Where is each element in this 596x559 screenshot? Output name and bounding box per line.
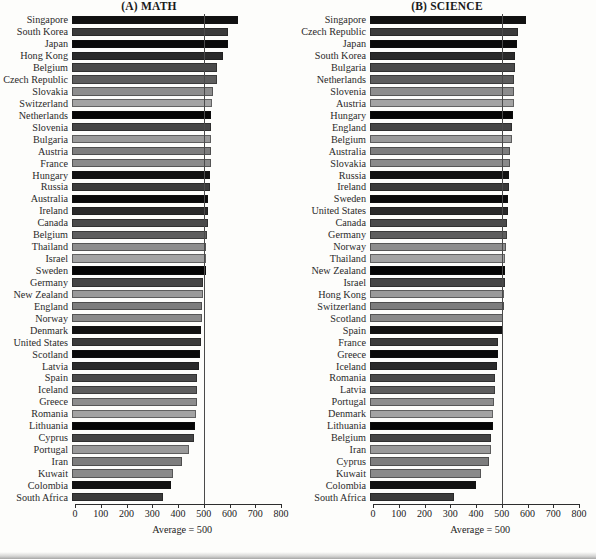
bar: [370, 362, 497, 370]
country-label: South Africa: [0, 492, 72, 503]
bar-track: [72, 157, 298, 169]
bar-track: [370, 62, 596, 74]
bar-row: Israel: [298, 277, 596, 289]
country-label: Czech Republic: [298, 26, 370, 37]
bar: [72, 326, 201, 334]
bar-row: Hong Kong: [0, 50, 298, 62]
bar-track: [370, 26, 596, 38]
bar-row: Greece: [0, 396, 298, 408]
country-label: Iceland: [298, 361, 370, 372]
bar: [370, 207, 508, 215]
bar-row: Singapore: [298, 14, 596, 26]
country-label: France: [298, 337, 370, 348]
axis-tick-label: 700: [546, 508, 561, 519]
bar-track: [370, 444, 596, 456]
bar-row: Czech Republic: [298, 26, 596, 38]
bar: [370, 183, 509, 191]
bar: [72, 147, 211, 155]
country-label: United States: [298, 205, 370, 216]
panel-math: (A) MATH SingaporeSouth KoreaJapanHong K…: [0, 0, 298, 559]
bar-track: [370, 86, 596, 98]
bar-track: [72, 229, 298, 241]
country-label: Australia: [298, 146, 370, 157]
bar: [72, 374, 197, 382]
bar-row: France: [0, 157, 298, 169]
country-label: Slovenia: [298, 86, 370, 97]
country-label: Portugal: [0, 444, 72, 455]
bar: [72, 278, 203, 286]
bar: [370, 481, 476, 489]
bar-track: [370, 50, 596, 62]
bar: [370, 290, 504, 298]
country-label: Australia: [0, 193, 72, 204]
country-label: Colombia: [0, 480, 72, 491]
bar: [72, 398, 197, 406]
bar-row: Ireland: [0, 205, 298, 217]
bar-track: [370, 372, 596, 384]
bar-row: Thailand: [298, 253, 596, 265]
bar-row: Hungary: [298, 110, 596, 122]
country-label: Romania: [0, 408, 72, 419]
bar-row: Iceland: [298, 360, 596, 372]
bar: [72, 171, 210, 179]
country-label: Spain: [0, 372, 72, 383]
bar-track: [72, 50, 298, 62]
country-label: Austria: [298, 98, 370, 109]
bar-row: Japan: [0, 38, 298, 50]
country-label: Romania: [298, 372, 370, 383]
country-label: Spain: [298, 325, 370, 336]
bar-track: [370, 14, 596, 26]
bar: [370, 52, 515, 60]
country-label: Thailand: [298, 253, 370, 264]
bar-row: Sweden: [298, 193, 596, 205]
bar-row: Lithuania: [0, 420, 298, 432]
bar: [72, 422, 195, 430]
bar-track: [72, 277, 298, 289]
bar-track: [370, 205, 596, 217]
country-label: Netherlands: [0, 110, 72, 121]
bar-track: [72, 121, 298, 133]
bar-row: Bulgaria: [298, 62, 596, 74]
bar: [72, 457, 182, 465]
bar-row: Belgium: [298, 432, 596, 444]
bar-track: [370, 324, 596, 336]
bar: [72, 63, 217, 71]
country-label: Slovakia: [298, 158, 370, 169]
bar-row: Hungary: [0, 169, 298, 181]
bar-row: Czech Republic: [0, 74, 298, 86]
country-label: Belgium: [0, 229, 72, 240]
bar-track: [72, 14, 298, 26]
country-label: Greece: [0, 396, 72, 407]
bar-row: Portugal: [298, 396, 596, 408]
axis-tick-label: 0: [73, 508, 78, 519]
axis-tick-label: 700: [248, 508, 263, 519]
bar-track: [72, 253, 298, 265]
bar: [72, 481, 171, 489]
axis-tick-label: 800: [572, 508, 587, 519]
bar: [72, 111, 211, 119]
bar: [72, 219, 208, 227]
bar: [72, 99, 212, 107]
bar-plot-math: SingaporeSouth KoreaJapanHong KongBelgiu…: [0, 14, 298, 503]
bar-track: [370, 396, 596, 408]
bar-track: [72, 289, 298, 301]
country-label: Norway: [298, 241, 370, 252]
bar: [370, 75, 514, 83]
bar-row: Norway: [0, 312, 298, 324]
bar-row: Spain: [0, 372, 298, 384]
bar-row: New Zealand: [298, 265, 596, 277]
bar: [72, 135, 211, 143]
panel-title-science: (B) SCIENCE: [298, 0, 596, 12]
bar-row: Switzerland: [0, 98, 298, 110]
bar-track: [72, 26, 298, 38]
bar-track: [370, 181, 596, 193]
bar-track: [72, 372, 298, 384]
bar-row: Iran: [0, 456, 298, 468]
bar-row: Greece: [298, 348, 596, 360]
bar-track: [370, 420, 596, 432]
bar-track: [72, 480, 298, 492]
bar: [72, 266, 206, 274]
country-label: Greece: [298, 349, 370, 360]
bar: [370, 278, 505, 286]
country-label: New Zealand: [0, 289, 72, 300]
